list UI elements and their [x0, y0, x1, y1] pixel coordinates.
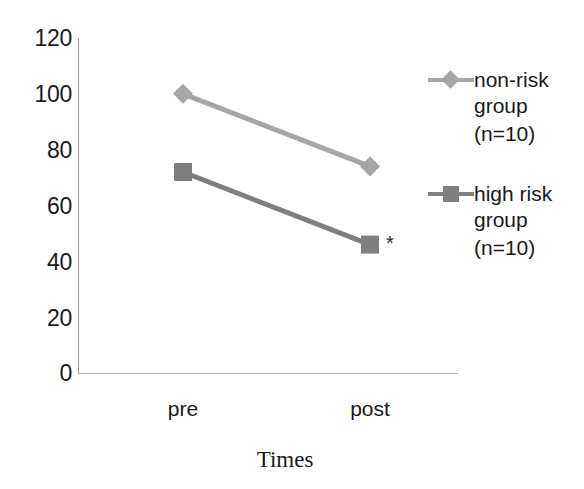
data-point-square	[361, 236, 379, 254]
legend-label-non-risk-line3: (n=10)	[428, 120, 584, 148]
legend-label-non-risk-line2: group	[428, 92, 584, 120]
significance-asterisk: *	[386, 233, 394, 253]
legend-entry-non-risk[interactable]: non-risk group (n=10)	[428, 68, 584, 148]
legend-label-high-risk-line1: high risk	[474, 182, 552, 206]
legend-entry-high-risk[interactable]: high risk group (n=10)	[428, 182, 584, 262]
data-point-square	[174, 163, 192, 181]
data-point-diamond	[173, 84, 193, 104]
diamond-glyph	[441, 70, 459, 88]
square-marker-icon	[428, 183, 474, 205]
legend-label-non-risk-line1: non-risk	[474, 68, 549, 92]
series-line	[183, 172, 370, 245]
line-chart: 120 100 80 60 40 20 0 pre post Times * n…	[0, 0, 584, 489]
series-high-risk	[174, 163, 379, 254]
legend-label-high-risk-line3: (n=10)	[428, 234, 584, 262]
data-point-diamond	[360, 156, 380, 176]
chart-legend: non-risk group (n=10) high risk group (n…	[428, 68, 584, 292]
series-line	[183, 94, 370, 167]
square-glyph	[443, 186, 459, 202]
diamond-marker-icon	[428, 69, 474, 91]
series-non-risk	[173, 84, 380, 177]
legend-label-high-risk-line2: group	[428, 206, 584, 234]
